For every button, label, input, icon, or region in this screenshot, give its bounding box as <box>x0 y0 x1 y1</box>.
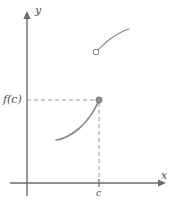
lower-branch-curve <box>56 103 98 141</box>
c-tick-label: c <box>96 189 101 198</box>
y-axis-label: y <box>35 5 41 16</box>
open-circle-point <box>93 49 99 55</box>
graph-canvas <box>0 0 175 207</box>
f-of-c-label: f(c) <box>3 94 22 105</box>
graph-figure: y x c f(c) <box>0 0 175 207</box>
y-axis-arrowhead <box>23 11 30 19</box>
y-axis <box>23 11 30 196</box>
filled-circle-point <box>96 97 102 103</box>
x-axis-label: x <box>161 170 167 181</box>
x-axis <box>10 179 166 186</box>
upper-branch-curve <box>98 29 130 51</box>
